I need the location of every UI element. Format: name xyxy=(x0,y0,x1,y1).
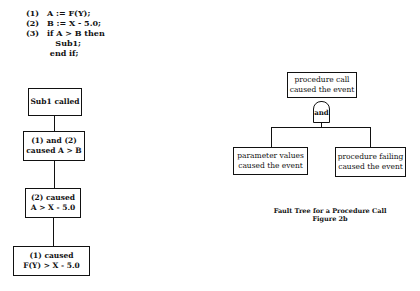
node-text-line2: F(Y) > X - 5.0 xyxy=(23,261,79,271)
and-gate-icon: and xyxy=(313,101,330,123)
node-text-line2: caused the event xyxy=(290,85,355,95)
code-listing: (1)A := F(Y); (2)B := X - 5.0; (3)if A >… xyxy=(26,8,105,58)
node-sub1-called: Sub1 called xyxy=(28,88,82,116)
gate-label: and xyxy=(314,108,329,117)
node-text-line2: caused A > B xyxy=(26,146,81,156)
connector-line xyxy=(271,127,371,128)
node-text-line1: procedure failing xyxy=(338,152,404,162)
node-1-caused: (1) caused F(Y) > X - 5.0 xyxy=(13,246,90,276)
code-text: B := X - 5.0; xyxy=(47,18,101,28)
node-text-line1: Sub1 called xyxy=(30,97,79,107)
line-number: (3) xyxy=(26,28,47,38)
node-text-line2: caused the event xyxy=(338,162,403,172)
line-number: (1) xyxy=(26,8,47,18)
node-text-line1: procedure call xyxy=(294,75,349,85)
node-text-line1: (1) caused xyxy=(29,251,73,261)
node-1-and-2-caused: (1) and (2) caused A > B xyxy=(23,131,85,161)
connector-line xyxy=(53,218,54,246)
code-text: A := F(Y); xyxy=(47,8,90,18)
line-number: (2) xyxy=(26,18,47,28)
node-2-caused: (2) caused A > X - 5.0 xyxy=(25,188,81,218)
node-text-line1: (2) caused xyxy=(31,193,75,203)
node-text-line1: parameter values xyxy=(237,151,304,161)
code-text: end if; xyxy=(47,48,79,58)
code-text: Sub1; xyxy=(47,38,81,48)
figure-caption: Fault Tree for a Procedure Call Figure 2… xyxy=(255,207,405,223)
child-event-parameter-values: parameter values caused the event xyxy=(233,147,308,175)
connector-line xyxy=(54,116,55,131)
caption-title: Fault Tree for a Procedure Call xyxy=(255,207,405,215)
code-text: if A > B then xyxy=(47,28,105,38)
top-event-box: procedure call caused the event xyxy=(287,72,357,98)
connector-line xyxy=(54,161,55,188)
child-event-procedure-failing: procedure failing caused the event xyxy=(335,147,406,177)
code-line-1: (1)A := F(Y); xyxy=(26,8,105,18)
connector-line xyxy=(370,127,371,147)
code-line-3: (3)if A > B then xyxy=(26,28,105,38)
code-line-4: Sub1; xyxy=(26,38,105,48)
node-text-line2: caused the event xyxy=(238,161,303,171)
code-line-5: end if; xyxy=(26,48,105,58)
code-line-2: (2)B := X - 5.0; xyxy=(26,18,105,28)
node-text-line2: A > X - 5.0 xyxy=(31,203,76,213)
connector-line xyxy=(271,127,272,147)
caption-figure-number: Figure 2b xyxy=(255,215,405,223)
node-text-line1: (1) and (2) xyxy=(31,136,76,146)
